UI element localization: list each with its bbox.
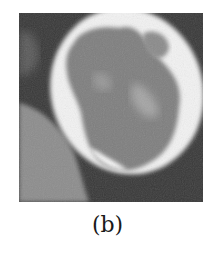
figure-caption: (b) bbox=[0, 212, 215, 237]
ct-scan-image bbox=[19, 13, 203, 202]
